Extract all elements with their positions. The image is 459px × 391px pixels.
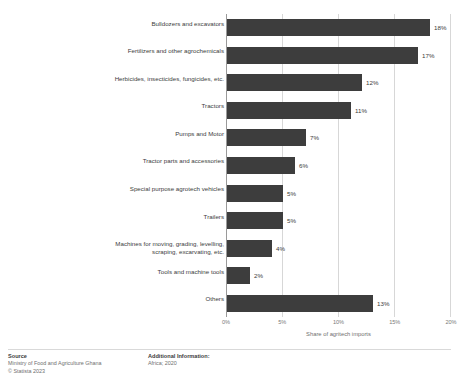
category-label: Tools and machine tools (34, 268, 224, 276)
bar-value-label: 18% (434, 24, 446, 31)
category-label: Pumps and Motor (34, 130, 224, 138)
bar[interactable] (227, 240, 272, 257)
x-axis-tick-label: 0% (222, 319, 230, 325)
bar-row: Special purpose agrotech vehicles5% (0, 179, 459, 207)
category-label: Fertilizers and other agrochemicals (34, 47, 224, 55)
bar[interactable] (227, 295, 373, 312)
footer-source: Source Ministry of Food and Agriculture … (8, 353, 148, 375)
bar[interactable] (227, 212, 283, 229)
x-axis-tick-label: 10% (333, 319, 344, 325)
bar-value-label: 5% (287, 217, 296, 224)
bar-row: Tractor parts and accessories6% (0, 152, 459, 180)
footer-source-heading: Source (8, 353, 148, 360)
footer-divider (8, 349, 451, 350)
category-label: Others (34, 295, 224, 303)
x-axis-tick-label: 15% (389, 319, 400, 325)
bar-row: Fertilizers and other agrochemicals17% (0, 42, 459, 70)
bar-row: Trailers5% (0, 207, 459, 235)
bar-row: Pumps and Motor7% (0, 124, 459, 152)
footer: Source Ministry of Food and Agriculture … (8, 353, 451, 375)
bar-value-label: 5% (287, 190, 296, 197)
bar-row: Others13% (0, 289, 459, 317)
bar-row: Machines for moving, grading, levelling,… (0, 234, 459, 262)
bar-value-label: 6% (299, 162, 308, 169)
bar[interactable] (227, 19, 430, 36)
footer-source-line: Ministry of Food and Agriculture Ghana (8, 360, 148, 367)
category-label: Machines for moving, grading, levelling,… (34, 240, 224, 255)
bar-value-label: 4% (276, 245, 285, 252)
bar[interactable] (227, 185, 283, 202)
bar-row: Tools and machine tools2% (0, 262, 459, 290)
bar-row: Herbicides, insecticides, fungicides, et… (0, 69, 459, 97)
bar[interactable] (227, 129, 306, 146)
footer-copyright-line: © Statista 2023 (8, 368, 148, 375)
x-axis-title: Share of agritech imports (226, 331, 451, 337)
bar-value-label: 2% (254, 272, 263, 279)
x-axis-tick-label: 20% (445, 319, 456, 325)
bar-value-label: 11% (355, 107, 367, 114)
bar-value-label: 13% (377, 300, 389, 307)
x-axis-ticks: 0%5%10%15%20% (0, 319, 459, 329)
bar[interactable] (227, 74, 362, 91)
bar-row: Bulldozers and excavators18% (0, 14, 459, 42)
bar-row: Tractors11% (0, 97, 459, 125)
bar[interactable] (227, 157, 295, 174)
bar[interactable] (227, 267, 250, 284)
bar-rows: Bulldozers and excavators18%Fertilizers … (0, 14, 459, 317)
category-label: Tractor parts and accessories (34, 157, 224, 165)
bar-value-label: 7% (310, 134, 319, 141)
category-label: Herbicides, insecticides, fungicides, et… (34, 75, 224, 83)
bar-value-label: 17% (422, 52, 434, 59)
category-label: Tractors (34, 102, 224, 110)
bar[interactable] (227, 47, 418, 64)
footer-additional-heading: Additional Information: (148, 353, 328, 360)
bar-value-label: 12% (366, 79, 378, 86)
category-label: Trailers (34, 213, 224, 221)
category-label: Bulldozers and excavators (34, 20, 224, 28)
bar[interactable] (227, 102, 351, 119)
statista-bar-chart: Bulldozers and excavators18%Fertilizers … (0, 0, 459, 391)
footer-additional-info: Additional Information: Africa; 2020 (148, 353, 328, 375)
x-axis-tick-label: 5% (278, 319, 286, 325)
footer-additional-line: Africa; 2020 (148, 360, 328, 367)
category-label: Special purpose agrotech vehicles (34, 185, 224, 193)
